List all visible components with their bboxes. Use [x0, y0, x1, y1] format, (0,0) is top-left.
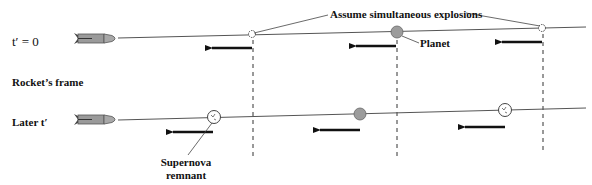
remnant-callout-line1: Supernova	[161, 156, 212, 168]
bottom-rocket	[74, 114, 115, 125]
frame-label: Rocket’s frame	[12, 76, 83, 88]
bottom-time-label: Later t′	[12, 116, 48, 128]
diagram-canvas: t′ = 0 Rocket’s frame Later t′ Assume si…	[0, 0, 592, 185]
explosions-callout: Assume simultaneous explosions	[330, 8, 483, 20]
top-planet-icon	[391, 26, 403, 38]
planet-callout: Planet	[420, 37, 450, 49]
remnant-callout-line	[188, 123, 212, 155]
callout-line-left	[254, 15, 328, 33]
left-explosion-icon	[249, 31, 256, 38]
planet-callout-line	[402, 36, 419, 43]
top-world-line	[118, 27, 586, 38]
remnant-callout-line2: remnant	[166, 169, 206, 181]
top-rocket	[74, 33, 115, 44]
right-remnant-icon	[499, 104, 512, 117]
left-remnant-icon	[208, 111, 221, 124]
bottom-world-line	[118, 108, 586, 120]
top-time-label: t′ = 0	[12, 34, 39, 49]
bottom-planet-icon	[354, 108, 366, 120]
